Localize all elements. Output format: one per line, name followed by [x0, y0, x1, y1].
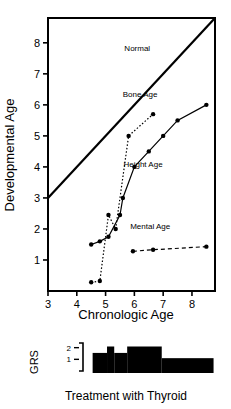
- y-tick-label: 1: [34, 254, 40, 266]
- y-tick-label: 3: [34, 192, 40, 204]
- grs-tick-label: 2: [67, 344, 72, 353]
- data-point: [151, 248, 155, 252]
- data-point: [131, 249, 135, 253]
- figure-container: 12345678 345678 NormalBone AgeHeight Age…: [0, 0, 231, 409]
- grs-step-bar: [114, 353, 127, 373]
- series-label-mental-age: Mental Age: [130, 222, 171, 231]
- data-point: [204, 103, 208, 107]
- data-point: [151, 112, 155, 116]
- data-point: [89, 280, 93, 284]
- grs-axis-title: GRS: [28, 350, 40, 374]
- grs-step-bar: [93, 353, 107, 373]
- data-point: [98, 279, 102, 283]
- data-point: [147, 149, 151, 153]
- data-point: [89, 242, 93, 246]
- data-point: [118, 213, 122, 217]
- data-point: [106, 235, 110, 239]
- y-tick-label: 5: [34, 130, 40, 142]
- data-point: [106, 213, 110, 217]
- x-axis-title: Chronologic Age: [78, 307, 173, 322]
- y-axis-title: Developmental Age: [2, 99, 17, 212]
- data-point: [126, 134, 130, 138]
- y-tick-label: 2: [34, 223, 40, 235]
- figure-background: [0, 0, 231, 409]
- growth-chart-figure: 12345678 345678 NormalBone AgeHeight Age…: [0, 0, 231, 409]
- series-label-normal: Normal: [124, 44, 150, 53]
- data-point: [113, 227, 117, 231]
- data-point: [175, 118, 179, 122]
- data-point: [161, 134, 165, 138]
- x-tick-label: 8: [189, 298, 195, 310]
- series-label-height-age: Height Age: [123, 160, 163, 169]
- grs-tick-label: 1: [67, 355, 72, 364]
- x-tick-label: 3: [45, 298, 51, 310]
- data-point: [121, 196, 125, 200]
- y-tick-label: 8: [34, 37, 40, 49]
- grs-step-bar: [162, 358, 214, 373]
- series-label-bone-age: Bone Age: [123, 90, 158, 99]
- grs-step-bar: [127, 347, 162, 374]
- y-tick-label: 4: [34, 161, 40, 173]
- y-tick-label: 6: [34, 99, 40, 111]
- y-tick-label: 7: [34, 68, 40, 80]
- grs-step-bar: [107, 347, 114, 374]
- data-point: [98, 239, 102, 243]
- data-point: [204, 244, 208, 248]
- treatment-caption: Treatment with Thyroid: [65, 389, 187, 403]
